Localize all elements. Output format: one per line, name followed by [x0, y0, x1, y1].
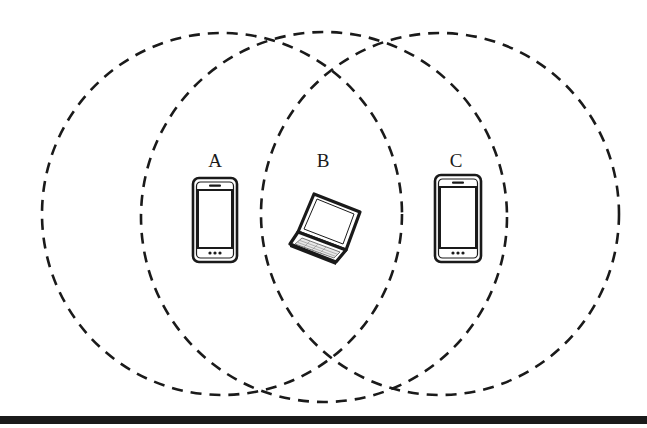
laptop-icon [290, 194, 360, 265]
bottom-divider [0, 416, 647, 424]
smartphone-icon [435, 175, 481, 262]
node-label-c: C [450, 150, 463, 171]
coverage-diagram: A B C [0, 0, 647, 428]
node-label-b: B [317, 150, 330, 171]
node-label-a: A [208, 150, 222, 171]
smartphone-icon [193, 178, 237, 262]
